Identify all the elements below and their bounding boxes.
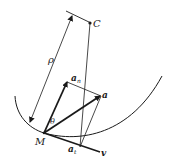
label-radius: ρ [47,54,54,65]
label-point-m: M [34,136,46,147]
radius-dimension-line [30,16,72,122]
acceleration-diagram: C ρ a n a θ M a t v [0,0,176,168]
label-angle: θ [50,117,55,126]
label-center: C [93,18,101,29]
trajectory-curve [15,76,162,137]
center-point [88,21,91,24]
diagram-canvas: C ρ a n a θ M a t v [0,0,176,168]
center-projection-line [80,23,90,147]
point-m [43,132,46,135]
label-velocity: v [101,148,107,158]
label-normal-sub: n [77,77,81,84]
label-tangential-sub: t [74,148,77,155]
label-accel: a [102,90,108,100]
